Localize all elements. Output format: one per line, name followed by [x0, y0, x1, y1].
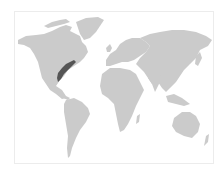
madagascar[interactable] — [136, 114, 140, 124]
south-america[interactable] — [64, 98, 90, 158]
southeast-asia-islands[interactable] — [166, 94, 190, 106]
world-map[interactable] — [0, 0, 224, 169]
central-america[interactable] — [56, 86, 70, 100]
greenland[interactable] — [76, 17, 104, 40]
asia[interactable] — [136, 30, 212, 92]
new-zealand[interactable] — [204, 134, 209, 146]
australia[interactable] — [172, 112, 200, 138]
india[interactable] — [148, 72, 162, 92]
north-america[interactable] — [18, 25, 88, 99]
land-masses — [18, 17, 212, 158]
uk-ireland[interactable] — [106, 44, 112, 52]
